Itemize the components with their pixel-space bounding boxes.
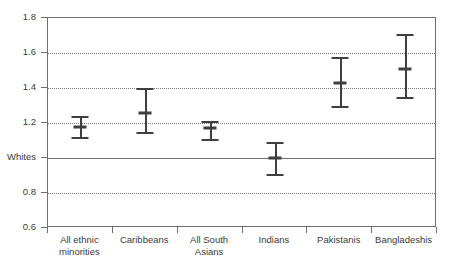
x-axis-labels: All ethnicminoritiesCaribbeansAll SouthA… (47, 234, 436, 268)
x-cat-label-line: minorities (42, 246, 116, 258)
chart-root: 0.60.8Whites1.21.41.61.8 All ethnicminor… (0, 0, 449, 268)
error-bar-cap-lower (396, 97, 413, 99)
x-tick-mark (306, 227, 307, 233)
x-tick-mark (177, 227, 178, 233)
x-tick-mark (112, 227, 113, 233)
x-tick-mark (47, 227, 48, 233)
x-cat-label-line: Asians (172, 246, 246, 258)
x-axis-category-label: All SouthAsians (172, 234, 246, 257)
x-cat-label-line: Indians (237, 234, 311, 246)
data-point-group (48, 18, 435, 226)
x-axis-category-label: Bangladeshis (367, 234, 441, 246)
plot-area (47, 17, 436, 227)
y-tick-label: 1.6 (23, 47, 36, 57)
x-cat-label-line: All South (172, 234, 246, 246)
x-axis-ticks (47, 227, 436, 233)
x-tick-mark (242, 227, 243, 233)
y-tick-label: 1.2 (23, 117, 36, 127)
y-tick-label: 1.8 (23, 12, 36, 22)
y-tick-label-whites: Whites (7, 152, 36, 162)
y-tick-label: 0.8 (23, 187, 36, 197)
x-axis-category-label: Caribbeans (107, 234, 181, 246)
point-estimate-marker (398, 67, 411, 70)
x-axis-category-label: All ethnicminorities (42, 234, 116, 257)
x-axis-category-label: Indians (237, 234, 311, 246)
x-tick-mark (371, 227, 372, 233)
x-cat-label-line: All ethnic (42, 234, 116, 246)
y-tick-label: 1.4 (23, 82, 36, 92)
x-axis-category-label: Pakistanis (302, 234, 376, 246)
error-bar-whisker (405, 34, 407, 97)
x-cat-label-line: Pakistanis (302, 234, 376, 246)
y-axis: 0.60.8Whites1.21.41.61.8 (0, 0, 44, 268)
y-tick-label: 0.6 (23, 222, 36, 232)
x-cat-label-line: Caribbeans (107, 234, 181, 246)
error-bar-cap-upper (396, 34, 413, 36)
x-cat-label-line: Bangladeshis (367, 234, 441, 246)
x-tick-mark (436, 227, 437, 233)
